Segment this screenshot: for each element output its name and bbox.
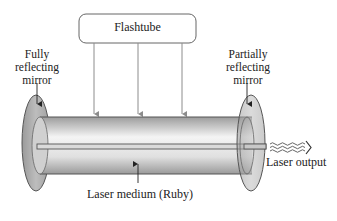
laser-diagram: Flashtube Fully reflecting mirror Partia… [0,0,337,221]
label-line: Fully [7,48,67,61]
partially-reflecting-mirror [237,95,266,191]
pump-light-arrows [94,43,182,114]
fully-reflecting-mirror-label: Fully reflecting mirror [7,48,67,87]
flashtube-label: Flashtube [79,21,196,34]
label-line: mirror [7,74,67,87]
label-line: Partially [213,48,283,61]
laser-output-label: Laser output [266,156,336,169]
label-line: mirror [213,74,283,87]
partially-reflecting-mirror-label: Partially reflecting mirror [213,48,283,87]
laser-medium-label: Laser medium (Ruby) [80,188,200,201]
laser-output-waves [270,141,311,154]
label-line: reflecting [213,61,283,74]
label-line: reflecting [7,61,67,74]
ruby-rod [37,144,266,149]
